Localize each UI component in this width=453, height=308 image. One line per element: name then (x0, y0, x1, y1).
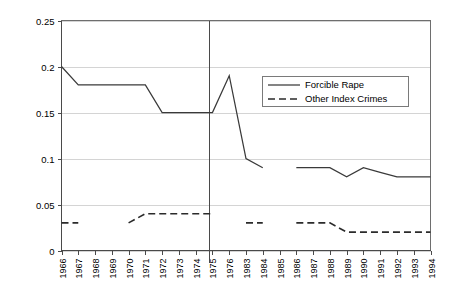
plot-border (62, 21, 431, 251)
x-tick-label: 1972 (158, 259, 168, 279)
series-line-segment (129, 214, 213, 223)
y-axis: 0.250.20.150.10.050 (36, 16, 62, 257)
y-tick-label: 0.25 (36, 16, 55, 27)
x-tick-label: 1969 (108, 259, 118, 279)
x-tick-label: 1966 (58, 259, 68, 279)
x-tick-label: 1968 (91, 259, 101, 279)
x-tick-label: 1984 (259, 259, 269, 279)
x-tick-label: 1986 (292, 259, 302, 279)
x-tick-label: 1973 (175, 259, 185, 279)
legend-label: Other Index Crimes (305, 93, 388, 104)
x-tick-label: 1983 (242, 259, 252, 279)
series-line-segment (296, 168, 430, 177)
x-tick-group: 1966196719681969197019711972197319741975… (58, 251, 437, 279)
line-chart: 0.250.20.150.10.050 19661967196819691970… (0, 0, 453, 308)
x-tick-label: 1992 (393, 259, 403, 279)
x-tick-label: 1987 (309, 259, 319, 279)
x-tick-label: 1976 (225, 259, 235, 279)
x-tick-label: 1994 (427, 259, 437, 279)
plot-border-group (62, 21, 431, 251)
x-tick-label: 1971 (141, 259, 151, 279)
y-tick-label: 0 (49, 246, 54, 257)
y-tick-label: 0.05 (36, 200, 55, 211)
y-tick-label: 0.15 (36, 108, 55, 119)
x-tick-label: 1970 (125, 259, 135, 279)
y-tick-label: 0.1 (41, 154, 54, 165)
series-line-segment (296, 223, 430, 232)
x-tick-label: 1985 (276, 259, 286, 279)
chart-legend: Forcible RapeOther Index Crimes (263, 77, 409, 107)
gridlines (62, 22, 431, 252)
x-tick-label: 1988 (326, 259, 336, 279)
x-axis: 1966196719681969197019711972197319741975… (58, 251, 437, 279)
x-tick-label: 1989 (343, 259, 353, 279)
y-tick-label: 0.2 (41, 62, 54, 73)
x-tick-label: 1993 (410, 259, 420, 279)
x-tick-label: 1967 (74, 259, 84, 279)
series-line-segment (62, 67, 263, 168)
series-other-index-crimes (62, 214, 431, 232)
chart-canvas: 0.250.20.150.10.050 19661967196819691970… (0, 0, 453, 308)
x-tick-label: 1974 (192, 259, 202, 279)
legend-label: Forcible Rape (305, 79, 364, 90)
x-tick-label: 1990 (359, 259, 369, 279)
x-tick-label: 1991 (376, 259, 386, 279)
y-tick-group: 0.250.20.150.10.050 (36, 16, 62, 257)
